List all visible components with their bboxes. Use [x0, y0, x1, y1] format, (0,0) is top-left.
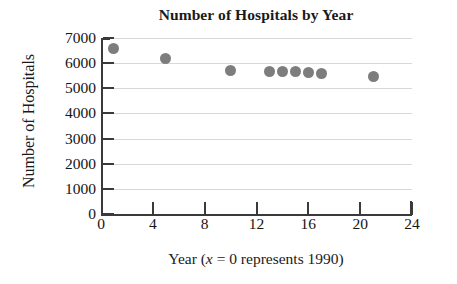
x-axis-tick-label: 12	[237, 216, 277, 232]
y-axis-tick-label: 5000	[36, 80, 96, 96]
x-axis-tick-label: 20	[340, 216, 380, 232]
y-axis-tick-label: 7000	[36, 30, 96, 46]
x-axis-tick-label: 24	[392, 216, 432, 232]
y-axis-tick-labels: 01000200030004000500060007000	[34, 38, 96, 216]
y-axis-tick-label: 4000	[36, 105, 96, 121]
y-axis-tick-label: 1000	[36, 181, 96, 197]
y-axis-tick-label: 3000	[36, 131, 96, 147]
y-axis-tick-label: 6000	[36, 55, 96, 71]
chart-figure: Number of Hospitals by Year Number of Ho…	[0, 0, 457, 284]
x-axis-tick-label: 0	[81, 216, 121, 232]
x-axis-tick-labels: 04812162024	[101, 0, 431, 284]
y-axis-tick-label: 2000	[36, 156, 96, 172]
x-axis-tick-label: 4	[133, 216, 173, 232]
x-axis-tick-label: 8	[185, 216, 225, 232]
x-axis-tick-label: 16	[288, 216, 328, 232]
